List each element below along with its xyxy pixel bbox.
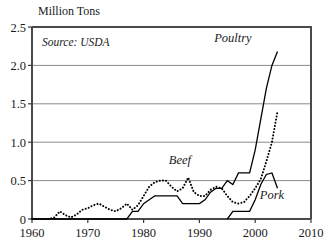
chart-container: 00.51.01.52.02.5196019701980199020002010… — [0, 0, 333, 251]
meat-imports-line-chart: 00.51.01.52.02.5196019701980199020002010… — [0, 0, 333, 251]
y-tick-label-0.5: 0.5 — [10, 174, 26, 188]
series-line-beef — [32, 111, 278, 219]
x-tick-label-1990: 1990 — [187, 226, 212, 240]
y-tick-label-1.5: 1.5 — [10, 97, 26, 111]
x-tick-label-1970: 1970 — [75, 226, 100, 240]
x-tick-label-1960: 1960 — [20, 226, 45, 240]
series-label-pork: Pork — [259, 188, 285, 202]
chart-title-million-tons: Million Tons — [38, 4, 100, 18]
y-tick-label-2.0: 2.0 — [10, 59, 26, 73]
series-label-poultry: Poultry — [213, 31, 252, 45]
y-tick-label-0: 0 — [20, 213, 26, 227]
x-tick-label-2010: 2010 — [299, 226, 324, 240]
series-label-beef: Beef — [169, 153, 193, 167]
x-tick-label-1980: 1980 — [131, 226, 156, 240]
x-tick-label-2000: 2000 — [243, 226, 268, 240]
source-note: Source: USDA — [42, 36, 111, 48]
y-tick-label-1.0: 1.0 — [10, 136, 26, 150]
series-line-poultry — [32, 52, 278, 219]
y-tick-label-2.5: 2.5 — [10, 21, 26, 35]
